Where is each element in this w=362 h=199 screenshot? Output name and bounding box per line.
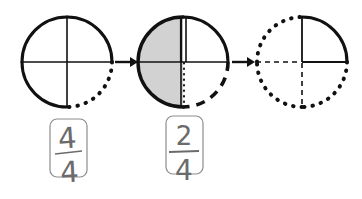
fraction-2-bar xyxy=(169,151,199,152)
arc-top-right-step-1 xyxy=(67,17,112,62)
fraction-card-step-2[interactable]: 2 4 xyxy=(166,116,203,187)
fraction-card-step-1[interactable]: 4 4 xyxy=(50,119,87,189)
arc-bottom-left-step-3 xyxy=(257,62,302,107)
arc-bottom-right-step-3 xyxy=(302,62,347,107)
fraction-2-denominator: 4 xyxy=(175,154,193,187)
arrow-1 xyxy=(115,57,138,67)
arrow-2-head xyxy=(247,57,255,67)
arc-bottom-left-step-1 xyxy=(22,62,67,107)
arc-bottom-right-step-2 xyxy=(183,62,228,107)
fraction-circle-step-1 xyxy=(21,16,113,108)
fraction-circle-step-2 xyxy=(137,16,229,108)
arc-top-left-step-1 xyxy=(22,17,67,62)
arc-bottom-right-step-1 xyxy=(67,62,112,107)
fraction-1-numerator: 4 xyxy=(57,120,78,155)
fraction-2-numerator: 2 xyxy=(176,121,193,151)
arc-top-left-step-3 xyxy=(257,17,302,62)
arc-top-right-step-3 xyxy=(302,17,347,62)
arc-top-right-step-2 xyxy=(183,17,228,62)
fraction-sequence-diagram: 4 4 2 4 xyxy=(0,0,362,199)
arrow-2 xyxy=(232,57,255,67)
fraction-circle-step-3 xyxy=(256,16,348,108)
diagram-canvas: 4 4 2 4 xyxy=(0,0,362,199)
fraction-1-denominator: 4 xyxy=(59,155,79,190)
